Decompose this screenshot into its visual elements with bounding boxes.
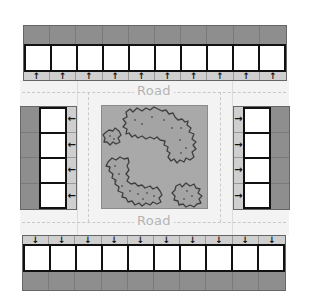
- parking-stall[interactable]: [39, 132, 67, 159]
- stalls-left: [39, 107, 67, 209]
- stalls-bottom: [23, 244, 285, 272]
- parking-stall[interactable]: [39, 107, 67, 134]
- back-strip-right: [271, 107, 289, 209]
- arrow-left-icon: ←: [67, 114, 75, 124]
- stalls-top: [24, 44, 286, 72]
- arrow-up-icon: ↑: [33, 72, 41, 81]
- arrow-up-icon: ↑: [164, 72, 172, 81]
- arrow-strip-top: ↑ ↑ ↑ ↑ ↑ ↑ ↑ ↑ ↑ ↑: [24, 72, 286, 80]
- parking-column-left: ← ← ← ←: [20, 106, 77, 210]
- tree-clusters-icon: [102, 106, 209, 210]
- stalls-right: [243, 107, 271, 209]
- road-label-bottom: Road: [134, 214, 174, 228]
- arrow-left-icon: ←: [67, 140, 75, 150]
- parking-stall[interactable]: [243, 182, 271, 209]
- arrow-up-icon: ↑: [269, 72, 277, 81]
- arrow-left-icon: ←: [67, 165, 75, 175]
- parking-stall[interactable]: [128, 44, 156, 72]
- parking-stall[interactable]: [153, 244, 181, 272]
- parking-stall[interactable]: [76, 44, 104, 72]
- road-centerline-left: [88, 92, 89, 222]
- back-strip-bottom: [23, 272, 285, 290]
- parking-stall[interactable]: [127, 244, 155, 272]
- arrow-up-icon: ↑: [111, 72, 119, 81]
- back-strip-top: [24, 26, 286, 44]
- arrow-up-icon: ↑: [138, 72, 146, 81]
- parking-row-top: ↑ ↑ ↑ ↑ ↑ ↑ ↑ ↑ ↑ ↑: [23, 25, 287, 81]
- arrow-strip-bottom: ↓ ↓ ↓ ↓ ↓ ↓ ↓ ↓ ↓ ↓: [23, 236, 285, 244]
- arrow-left-icon: ←: [67, 191, 75, 201]
- arrow-right-icon: →: [234, 114, 242, 124]
- road-edge-left: [77, 80, 78, 235]
- road-label-top: Road: [134, 84, 174, 98]
- parking-stall[interactable]: [257, 244, 285, 272]
- parking-stall[interactable]: [101, 244, 129, 272]
- arrow-strip-right: → → → →: [234, 107, 243, 209]
- parking-stall[interactable]: [24, 44, 52, 72]
- arrow-right-icon: →: [234, 191, 242, 201]
- parking-stall[interactable]: [49, 244, 77, 272]
- arrow-strip-left: ← ← ← ←: [67, 107, 76, 209]
- parking-stall[interactable]: [258, 44, 286, 72]
- parking-stall[interactable]: [205, 244, 233, 272]
- parking-stall[interactable]: [232, 44, 260, 72]
- road-centerline-right: [220, 92, 221, 222]
- parking-stall[interactable]: [179, 244, 207, 272]
- parking-stall[interactable]: [243, 107, 271, 134]
- parking-stall[interactable]: [154, 44, 182, 72]
- parking-row-bottom: ↓ ↓ ↓ ↓ ↓ ↓ ↓ ↓ ↓ ↓: [22, 235, 286, 291]
- parking-stall[interactable]: [243, 132, 271, 159]
- parking-stall[interactable]: [75, 244, 103, 272]
- parking-stall[interactable]: [102, 44, 130, 72]
- arrow-up-icon: ↑: [216, 72, 224, 81]
- arrow-right-icon: →: [234, 140, 242, 150]
- parking-stall[interactable]: [243, 157, 271, 184]
- parking-stall[interactable]: [206, 44, 234, 72]
- parking-stall[interactable]: [50, 44, 78, 72]
- parking-column-right: → → → →: [233, 106, 290, 210]
- arrow-up-icon: ↑: [190, 72, 198, 81]
- parking-stall[interactable]: [39, 182, 67, 209]
- arrow-up-icon: ↑: [59, 72, 67, 81]
- parking-stall[interactable]: [231, 244, 259, 272]
- parking-stall[interactable]: [23, 244, 51, 272]
- parking-stall[interactable]: [180, 44, 208, 72]
- back-strip-left: [21, 107, 39, 209]
- arrow-up-icon: ↑: [85, 72, 93, 81]
- arrow-right-icon: →: [234, 165, 242, 175]
- central-park: [101, 105, 208, 209]
- arrow-up-icon: ↑: [242, 72, 250, 81]
- parking-stall[interactable]: [39, 157, 67, 184]
